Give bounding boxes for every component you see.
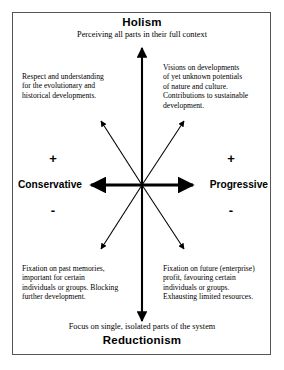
reductionism-subtitle: Focus on single, isolated parts of the s…: [0, 322, 284, 332]
conservative-minus-sign: -: [45, 204, 61, 217]
conservative-plus-sign: +: [45, 152, 61, 165]
progressive-minus-sign: -: [223, 204, 239, 217]
quadrant-text-bottom-left: Fixation on past memories, important for…: [22, 264, 128, 302]
progressive-label: Progressive: [210, 179, 268, 191]
holism-heading: Holism: [0, 16, 284, 29]
reductionism-heading: Reductionism: [0, 334, 284, 347]
holism-subtitle: Perceiving all parts in their full conte…: [0, 30, 284, 40]
conservative-label: Conservative: [18, 179, 82, 191]
quadrant-text-top-left: Respect and understanding for the evolut…: [22, 72, 124, 100]
progressive-plus-sign: +: [223, 152, 239, 165]
holism-reductionism-diagram: Holism Perceiving all parts in their ful…: [0, 0, 284, 370]
quadrant-text-top-right: Visions on developments of yet unknown p…: [163, 63, 267, 110]
quadrant-text-bottom-right: Fixation on future (enterprise) profit, …: [163, 264, 269, 302]
